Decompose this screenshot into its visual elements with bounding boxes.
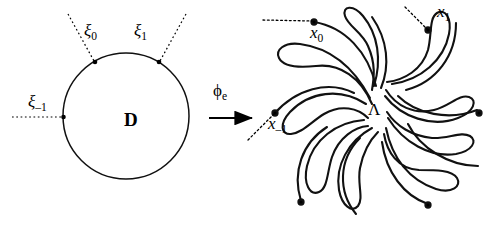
endpoint-x-1-dot: [425, 27, 430, 32]
figure-vector-layer: [0, 0, 501, 226]
endpoint-tip-dot-right: [476, 110, 481, 115]
endpoint-label-x-1-sub: 1: [445, 11, 451, 24]
leader-line-xi-1: [160, 14, 186, 61]
endpoint-tip-dot-bottom: [425, 202, 430, 207]
figure-canvas: D ξ0 ξ1 ξ–1 ϕe x0 x1 x–1 Λ: [0, 0, 501, 226]
endpoint-label-x-0-sub: 0: [318, 32, 324, 45]
boundary-label-xi-1: ξ1: [134, 22, 147, 43]
leader-line-x-1: [405, 7, 427, 29]
boundary-label-xi-1-sub: 1: [141, 30, 147, 43]
endpoint-label-x-minus-1-sub: –1: [276, 123, 288, 136]
endpoint-label-x-0: x0: [310, 24, 323, 45]
region-label-lambda: Λ: [368, 101, 380, 118]
boundary-label-xi-minus-1: ξ–1: [28, 93, 47, 114]
endpoint-label-x-0-base: x: [310, 23, 318, 42]
boundary-label-xi-0-sub: 0: [91, 30, 97, 43]
attractor-arm-12: [387, 112, 474, 155]
map-arrow-label-base: ϕ: [213, 81, 222, 100]
attractor-arm-7: [343, 138, 360, 214]
attractor-lambda-group: [248, 7, 482, 214]
endpoint-tip-dot-lower-left: [298, 199, 303, 204]
endpoint-label-x-1-base: x: [437, 2, 445, 21]
boundary-point-xi-minus-1-dot: [61, 115, 66, 120]
map-arrow-label-sub: e: [222, 90, 227, 103]
endpoint-label-x-1: x1: [437, 3, 450, 24]
endpoint-label-x-minus-1-base: x: [268, 114, 276, 133]
attractor-arm-13: [398, 96, 477, 115]
attractor-arm-11: [408, 124, 478, 166]
boundary-label-xi-0: ξ0: [84, 22, 97, 43]
attractor-arm-14: [385, 90, 474, 122]
endpoint-label-x-minus-1: x–1: [268, 115, 287, 136]
attractor-arm-3: [274, 87, 354, 114]
map-arrow-label: ϕe: [213, 82, 227, 103]
leader-line-x-0: [263, 20, 312, 21]
region-label-d: D: [124, 110, 138, 129]
boundary-label-xi-minus-1-sub: –1: [35, 101, 47, 114]
